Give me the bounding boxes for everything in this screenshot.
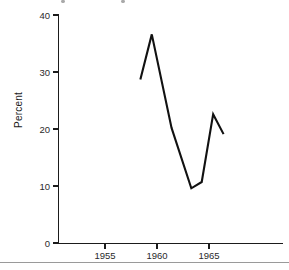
chart-figure: 40 30 20 10 0 Percent 1955 1960 1965 [0,0,289,270]
x-tick-label-1965: 1965 [198,250,219,261]
y-tick-label-10: 10 [39,181,50,192]
line-chart-plot: 40 30 20 10 0 Percent 1955 1960 1965 [0,0,289,270]
data-line-series [140,34,223,188]
y-axis: 40 30 20 10 0 Percent [13,10,59,249]
x-tick-label-1955: 1955 [94,250,115,261]
y-tick-label-0: 0 [45,238,50,249]
y-tick-label-20: 20 [39,124,50,135]
x-tick-label-1960: 1960 [146,250,167,261]
y-tick-label-40: 40 [39,10,50,21]
y-axis-title: Percent [13,92,24,128]
y-tick-label-30: 30 [39,67,50,78]
cut-off-title-remnant [61,0,125,3]
x-axis: 1955 1960 1965 [59,244,284,262]
